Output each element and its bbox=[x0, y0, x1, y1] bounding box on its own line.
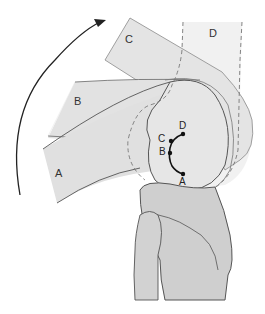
label-position-b: B bbox=[74, 96, 81, 107]
diagram-graphic bbox=[0, 0, 265, 314]
point-c bbox=[169, 139, 173, 143]
arrow-head-icon bbox=[94, 19, 106, 27]
label-position-a: A bbox=[55, 168, 62, 179]
label-point-c: C bbox=[158, 134, 165, 144]
label-position-c: C bbox=[125, 34, 133, 45]
point-b bbox=[168, 151, 172, 155]
point-d bbox=[181, 132, 185, 136]
knee-rotation-diagram: C D B A D C B A bbox=[0, 0, 265, 314]
fibula bbox=[134, 212, 162, 301]
label-point-a: A bbox=[179, 177, 186, 187]
label-point-b: B bbox=[159, 147, 166, 157]
label-position-d: D bbox=[209, 28, 217, 39]
label-point-d: D bbox=[179, 121, 186, 131]
